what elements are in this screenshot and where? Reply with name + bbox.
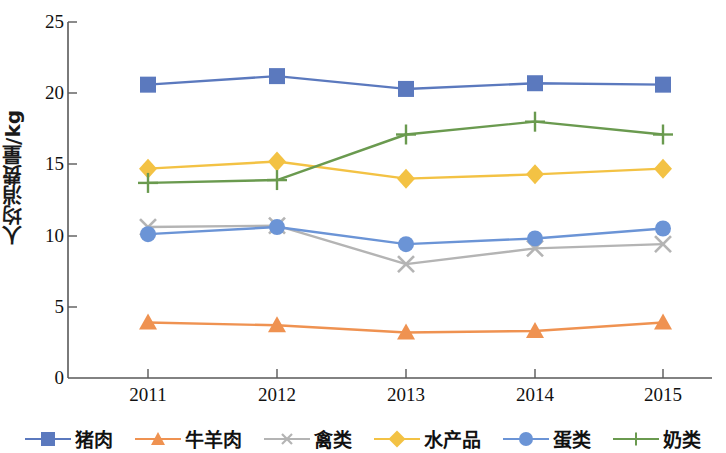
legend-item-zhurou[interactable]: 猪肉 [25,425,113,452]
marker-circle [140,226,156,242]
legend-item-nailei[interactable]: 奶类 [613,425,701,452]
marker-square [140,77,156,93]
marker-circle [527,230,543,246]
marker-diamond [526,164,544,184]
legend-item-shuichanpin[interactable]: 水产品 [374,425,481,452]
marker-diamond [397,169,415,189]
legend-label: 猪肉 [75,425,113,452]
line-chart: 人均消费量/kg 25 20 15 10 5 0 2011 2012 2013 … [0,0,726,453]
legend-key-triangle-icon [135,430,181,448]
series-0 [140,68,671,97]
marker-square [655,77,671,93]
legend-key-diamond-icon [374,430,420,448]
plot-area [0,0,726,420]
legend-key-circle-icon [503,430,549,448]
legend-item-niuyangrou[interactable]: 牛羊肉 [135,425,242,452]
legend-item-danlei[interactable]: 蛋类 [503,425,591,452]
legend-key-x-icon [264,430,310,448]
legend-label: 牛羊肉 [185,425,242,452]
legend-key-plus-icon [613,430,659,448]
legend-item-qinlei[interactable]: 禽类 [264,425,352,452]
marker-square [527,75,543,91]
marker-diamond [268,152,286,172]
legend-label: 水产品 [424,425,481,452]
legend-label: 奶类 [663,425,701,452]
legend-label: 蛋类 [553,425,591,452]
legend-label: 禽类 [314,425,352,452]
marker-circle [398,236,414,252]
chart-legend: 猪肉 牛羊肉 禽类 水产品 [0,424,726,453]
marker-circle [655,220,671,236]
legend-key-square-icon [25,430,71,448]
series-layer [138,68,673,339]
marker-square [269,68,285,84]
series-1 [139,313,672,339]
series-3 [139,152,672,189]
marker-circle [269,219,285,235]
marker-diamond [654,159,672,179]
marker-square [398,81,414,97]
marker-triangle [654,313,672,329]
